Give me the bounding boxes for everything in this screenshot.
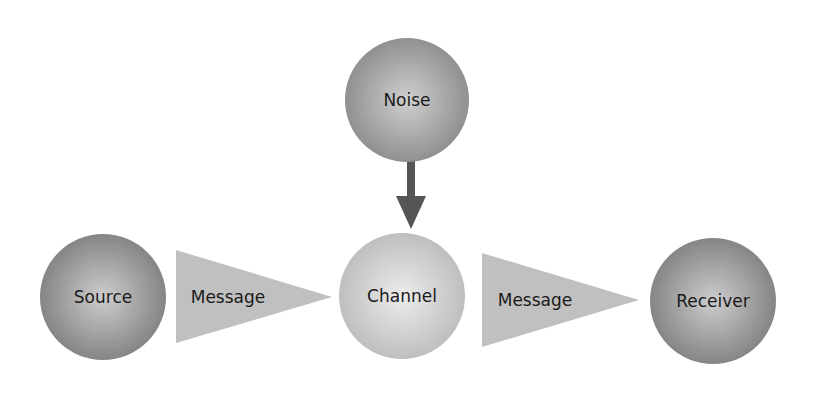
receiver-label: Receiver <box>676 291 750 311</box>
message-arrow-1: Message <box>176 250 332 343</box>
message-label-2: Message <box>498 290 573 310</box>
channel-label: Channel <box>367 286 437 306</box>
receiver-node: Receiver <box>650 238 776 364</box>
noise-node: Noise <box>345 38 469 162</box>
source-label: Source <box>74 287 132 307</box>
message-arrow-2: Message <box>482 253 639 347</box>
communication-model-diagram: Message Message Noise Source Channel Rec… <box>0 0 828 393</box>
source-node: Source <box>40 234 166 360</box>
channel-node: Channel <box>339 233 465 359</box>
noise-arrow <box>396 160 426 229</box>
message-label-1: Message <box>191 287 266 307</box>
noise-label: Noise <box>383 90 430 110</box>
